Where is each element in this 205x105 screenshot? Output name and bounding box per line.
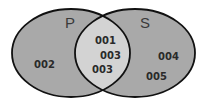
- set-s-label: S: [140, 14, 150, 31]
- set-p-label: P: [65, 14, 75, 31]
- set-s-item: 004: [158, 51, 179, 62]
- set-s-item: 005: [146, 71, 167, 82]
- intersection-item: 001: [95, 35, 116, 46]
- intersection-item: 003: [100, 50, 121, 61]
- intersection-item: 003: [92, 64, 113, 75]
- set-p-item: 002: [34, 59, 55, 70]
- venn-diagram: P S 002 001 003 003 004 005: [0, 0, 205, 105]
